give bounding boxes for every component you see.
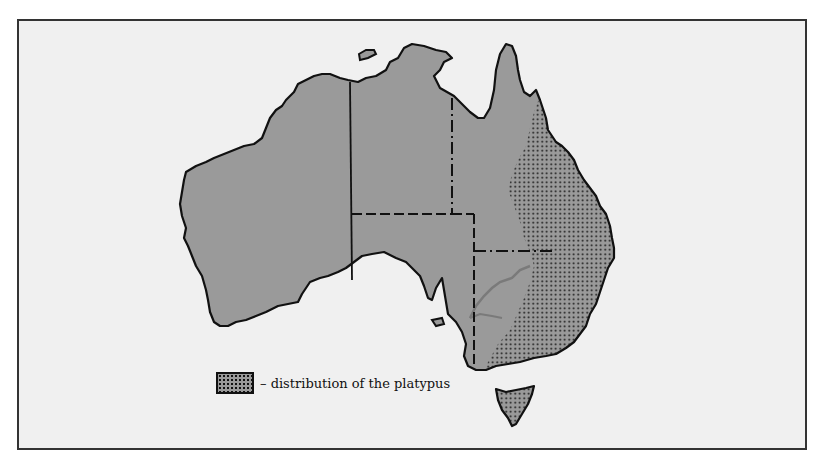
- legend-label: – distribution of the platypus: [260, 376, 450, 391]
- map-legend: – distribution of the platypus: [216, 372, 450, 394]
- island-kangaroo: [432, 318, 444, 326]
- island-melville: [359, 50, 376, 60]
- australia-map: [0, 0, 827, 465]
- dotted-pattern-swatch: [216, 372, 254, 394]
- tasmania: [496, 386, 534, 426]
